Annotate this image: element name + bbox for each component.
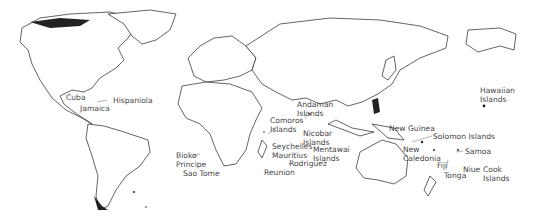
europe: [188, 36, 256, 82]
label-sao-tome: Sao Tome: [183, 170, 220, 178]
madagascar: [258, 140, 267, 158]
label-jamaica: Jamaica: [80, 105, 110, 113]
label-samoa: Samoa: [465, 148, 491, 156]
label-tonga: Tonga: [444, 172, 466, 180]
label-cook-islands: Islands: [483, 175, 510, 183]
label-solomon-islands: Solomon Islands: [433, 133, 495, 141]
label-fiji: Fiji: [437, 162, 447, 170]
label-hawaiian-islands: Islands: [480, 96, 507, 104]
label-reunion: Reunion: [264, 169, 295, 177]
label-cuba: Cuba: [66, 94, 86, 102]
label-new-caledonia-2: Caledonia: [403, 155, 441, 163]
label-comoros-islands: Islands: [270, 126, 297, 134]
label-andaman-islands: Islands: [297, 110, 324, 118]
new-zealand: [424, 176, 436, 196]
label-hispaniola: Hispaniola: [113, 97, 153, 105]
world-map: Cuba Jamaica Hispaniola Bioko Principe S…: [0, 0, 538, 223]
hawaii-dot: [483, 105, 486, 108]
australia: [356, 140, 408, 184]
asia: [246, 18, 448, 106]
label-new-guinea: New Guinea: [389, 125, 435, 133]
philippines: [372, 98, 380, 114]
south-america: [86, 124, 150, 210]
indonesia: [328, 120, 374, 136]
